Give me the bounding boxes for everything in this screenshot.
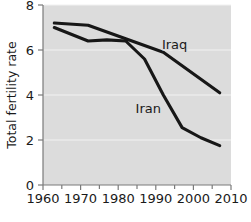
y-tick-label: 6 (26, 43, 34, 58)
y-tick-label: 4 (26, 88, 34, 103)
y-axis: 02468 (26, 0, 43, 193)
y-tick-marks (38, 5, 43, 185)
y-tick-labels: 02468 (26, 0, 34, 193)
y-tick-label: 2 (26, 133, 34, 148)
x-tick-label: 1970 (64, 191, 97, 206)
x-tick-label: 1980 (102, 191, 135, 206)
x-tick-labels: 196019701980199020002010 (26, 191, 247, 206)
series-label-iraq: Iraq (162, 37, 187, 52)
x-tick-label: 1990 (139, 191, 172, 206)
x-tick-marks (43, 185, 231, 190)
y-tick-label: 8 (26, 0, 34, 13)
x-tick-label: 1960 (26, 191, 59, 206)
x-tick-label: 2000 (177, 191, 210, 206)
chart-canvas: 02468 196019701980199020002010 IraqIraqI… (0, 0, 251, 222)
y-axis-title: Total fertility rate (4, 41, 19, 150)
x-axis: 196019701980199020002010 (26, 185, 247, 206)
series-label-iran: Iran (136, 101, 161, 116)
fertility-rate-line-chart: 02468 196019701980199020002010 IraqIraqI… (0, 0, 251, 222)
x-tick-label: 2010 (214, 191, 247, 206)
